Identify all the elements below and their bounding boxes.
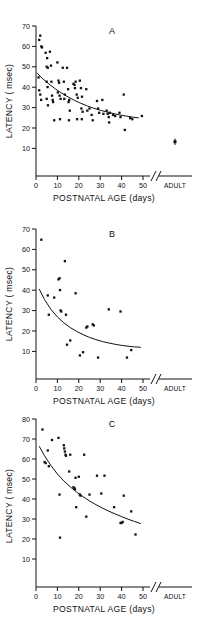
data-point (75, 506, 77, 508)
data-point (40, 239, 42, 241)
data-point (124, 129, 126, 131)
panel-a: 70 60 50 40 30 20 10 0 10 20 30 40 50 AD… (0, 0, 198, 207)
data-point (47, 104, 49, 106)
data-point (96, 475, 98, 477)
data-point (81, 118, 83, 120)
panel-b-y-tick-labels: 70 60 50 40 30 20 10 (22, 225, 30, 356)
data-point (59, 289, 61, 291)
y-tick-label: 30 (22, 515, 30, 524)
y-tick-label: 30 (22, 306, 30, 315)
data-point (83, 454, 85, 456)
data-point (108, 116, 110, 118)
data-point (77, 97, 79, 99)
data-point (86, 325, 88, 327)
x-axis-title: POSTNATAL AGE (days) (53, 193, 155, 203)
data-point (59, 537, 61, 539)
x-adult-label: ADULT (164, 182, 186, 189)
x-tick-label: 10 (53, 592, 61, 601)
data-point (141, 115, 143, 117)
data-point (58, 94, 60, 96)
data-point (57, 79, 59, 81)
data-point (51, 439, 53, 441)
data-point (80, 107, 82, 109)
y-axis-title: LATENCY ( msec) (4, 64, 14, 138)
adult-data-point (174, 140, 177, 143)
panel-a-x-tick-labels: 0 10 20 30 40 50 ADULT (34, 181, 186, 190)
data-point (67, 88, 69, 90)
data-point (39, 93, 41, 95)
data-point (68, 470, 70, 472)
data-point (103, 475, 105, 477)
data-point (88, 493, 90, 495)
data-point (122, 521, 124, 523)
y-tick-label: 50 (22, 62, 30, 71)
data-point (56, 61, 58, 63)
y-tick-label: 60 (22, 455, 30, 464)
x-tick-label: 40 (118, 181, 126, 190)
data-point (100, 492, 102, 494)
data-point (59, 118, 61, 120)
data-point (130, 349, 132, 351)
data-point (88, 107, 90, 109)
x-tick-label: 50 (139, 384, 147, 393)
data-point (57, 437, 59, 439)
panel-c-y-tick-labels: 80 70 60 50 40 30 20 10 (22, 415, 30, 564)
data-point (97, 356, 99, 358)
data-point (79, 79, 81, 81)
data-point (76, 93, 78, 95)
x-tick-label: 20 (75, 384, 83, 393)
data-point (69, 454, 71, 456)
data-point (98, 112, 100, 114)
panel-c-axes (32, 419, 192, 592)
data-point (47, 294, 49, 296)
data-point (44, 52, 46, 54)
y-tick-label: 50 (22, 265, 30, 274)
data-point (53, 119, 55, 121)
data-point (123, 495, 125, 497)
y-tick-label: 10 (22, 144, 30, 153)
data-point (74, 292, 76, 294)
data-point (101, 99, 103, 101)
panel-a-adult-marker (174, 139, 177, 145)
panel-c-plot: 80 70 60 50 40 30 20 10 0 10 20 30 40 50… (0, 411, 198, 632)
x-tick-label: 40 (118, 592, 126, 601)
x-tick-label: 30 (96, 592, 104, 601)
panel-b-axes (32, 229, 192, 384)
data-point (50, 81, 52, 83)
y-tick-label: 10 (22, 555, 30, 564)
data-point (74, 81, 76, 83)
data-point (92, 119, 94, 121)
data-point (90, 114, 92, 116)
x-tick-label: 0 (34, 384, 38, 393)
data-point (63, 98, 65, 100)
panel-label-b: B (109, 229, 115, 239)
data-point (78, 476, 80, 478)
y-tick-label: 20 (22, 327, 30, 336)
y-tick-label: 50 (22, 475, 30, 484)
data-point (63, 81, 65, 83)
data-point (53, 296, 55, 298)
data-point (58, 493, 60, 495)
x-tick-label: 50 (139, 592, 147, 601)
data-point (46, 86, 48, 88)
x-tick-label: 30 (96, 181, 104, 190)
data-point (48, 465, 50, 467)
data-point (68, 119, 70, 121)
data-point (107, 113, 109, 115)
panel-label-c: C (109, 419, 116, 429)
panel-b: 70 60 50 40 30 20 10 0 10 20 30 40 50 AD… (0, 207, 198, 411)
data-point (79, 354, 81, 356)
data-point (40, 99, 42, 101)
y-tick-label: 70 (22, 225, 30, 234)
data-point (119, 116, 121, 118)
data-point (64, 260, 66, 262)
y-tick-label: 60 (22, 42, 30, 51)
panel-b-plot: 70 60 50 40 30 20 10 0 10 20 30 40 50 AD… (0, 207, 198, 411)
figure-latency-vs-postnatal-age: 70 60 50 40 30 20 10 0 10 20 30 40 50 AD… (0, 0, 198, 632)
x-tick-label: 40 (118, 384, 126, 393)
panel-a-axes (32, 26, 192, 181)
data-point (76, 118, 78, 120)
data-point (52, 101, 54, 103)
panel-label-a: A (109, 26, 115, 36)
data-point (65, 455, 67, 457)
